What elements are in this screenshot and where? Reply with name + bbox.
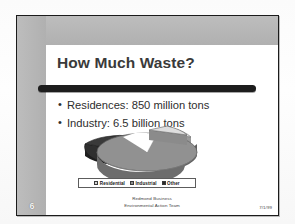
bullet-point-icon: • [58,116,67,130]
slide-footer: Redmond Business Environmental Action Te… [77,196,227,210]
bullet-point-icon: • [58,98,67,112]
legend-item-residential: Residential [94,181,125,186]
slide-frame-left-band [17,16,46,215]
legend-swatch-icon [94,181,98,185]
legend-swatch-icon [162,181,166,185]
list-item: • Residences: 850 million tons [58,98,268,112]
legend-swatch-icon [130,181,134,185]
footer-line-2: Environmental Action Team [77,203,227,210]
legend-item-other: Other [162,181,180,186]
bullet-text: Residences: 850 million tons [67,98,268,112]
footer-line-1: Redmond Business [77,196,227,203]
presentation-slide: How Much Waste? • Residences: 850 millio… [16,15,279,216]
chart-legend: Residential Industrial Other [78,178,196,188]
legend-label: Residential [100,181,125,186]
title-divider-rule [38,85,256,92]
slide-date-stamp: 7/1/99 [259,205,272,210]
scanned-page-background: How Much Waste? • Residences: 850 millio… [0,0,295,224]
slide-page-number: 6 [24,201,40,211]
slide-title: How Much Waste? [57,54,257,71]
legend-label: Other [167,181,180,186]
legend-item-industrial: Industrial [130,181,157,186]
legend-label: Industrial [135,181,156,186]
slide-frame-top-band [17,16,278,45]
